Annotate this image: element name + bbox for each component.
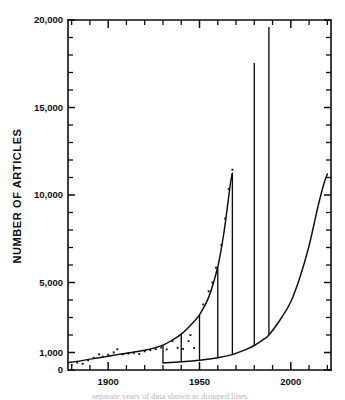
data-point-9	[116, 348, 118, 350]
y-tick-label-0: 0	[58, 364, 63, 375]
data-point-24	[193, 347, 195, 349]
data-point-14	[144, 350, 146, 352]
y-tick-label-15000: 15,000	[34, 102, 63, 113]
data-point-23	[189, 334, 191, 336]
data-point-28	[215, 267, 217, 269]
data-point-21	[182, 348, 184, 350]
data-point-15	[149, 349, 151, 351]
data-point-3	[87, 359, 89, 361]
data-point-30	[224, 218, 226, 220]
data-point-27	[211, 282, 213, 284]
data-point-31	[228, 188, 230, 190]
data-point-13	[138, 353, 140, 355]
data-point-25	[202, 303, 204, 305]
data-point-10	[122, 353, 124, 355]
chart-series-lines	[68, 173, 327, 363]
chart-dropped-spikes	[163, 27, 269, 363]
y-tick-label-1000: 1,000	[39, 347, 63, 358]
data-point-19	[171, 340, 173, 342]
series-upper-growth-curve	[68, 173, 232, 363]
y-axis-title: NUMBER OF ARTICLES	[11, 128, 23, 263]
data-point-29	[221, 244, 223, 246]
data-point-12	[133, 352, 135, 354]
data-point-1	[76, 362, 78, 364]
data-point-5	[98, 353, 100, 355]
data-point-2	[82, 363, 84, 365]
chart-tick-labels: 01,0005,00010,00015,00020,00019001950200…	[34, 14, 301, 387]
y-tick-label-20000: 20,000	[34, 14, 63, 25]
data-point-32	[231, 169, 233, 171]
series-lower-baseline-curve	[163, 174, 327, 363]
data-point-4	[93, 357, 95, 359]
data-point-0	[71, 364, 73, 366]
partial-caption: separate years of data shown as dropped …	[92, 391, 247, 400]
chart-scatter-points	[71, 169, 234, 366]
y-tick-label-10000: 10,000	[34, 189, 63, 200]
data-point-22	[188, 340, 190, 342]
data-point-16	[155, 348, 157, 350]
data-point-18	[166, 348, 168, 350]
data-point-6	[102, 356, 104, 358]
figure-container: 01,0005,00010,00015,00020,00019001950200…	[0, 0, 345, 400]
y-tick-label-5000: 5,000	[39, 277, 63, 288]
data-point-26	[208, 290, 210, 292]
data-point-8	[113, 351, 115, 353]
data-point-11	[127, 353, 129, 355]
caption-strip: separate years of data shown as dropped …	[0, 386, 345, 400]
data-point-17	[160, 347, 162, 349]
article-count-chart: 01,0005,00010,00015,00020,00019001950200…	[0, 0, 345, 400]
data-point-7	[107, 354, 109, 356]
data-point-20	[177, 347, 179, 349]
